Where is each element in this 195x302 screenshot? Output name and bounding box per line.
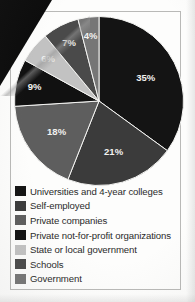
pie-slice-label: 4% [84, 30, 98, 41]
legend-color-swatch [15, 230, 26, 240]
legend-item-label: Private not-for-profit organizations [30, 230, 171, 241]
legend-item: Universities and 4-year colleges [15, 184, 181, 199]
legend-color-swatch [15, 274, 26, 284]
pie-chart: 35%21%18%9%6%7%4% [14, 16, 186, 186]
legend-color-swatch [15, 186, 26, 196]
chart-legend: Universities and 4-year collegesSelf-emp… [15, 184, 181, 286]
legend-item-label: Self-employed [30, 200, 90, 211]
pie-slice-group [15, 16, 184, 185]
pie-slice-label: 9% [28, 81, 42, 92]
legend-item-label: State or local government [30, 244, 137, 255]
page-edge-right-shadow [186, 0, 195, 302]
legend-item: Schools [15, 257, 181, 272]
legend-item: Private not-for-profit organizations [15, 228, 181, 243]
pie-slice-label: 35% [136, 72, 156, 83]
legend-item-label: Government [30, 273, 82, 284]
pie-slice-label: 18% [47, 126, 67, 137]
legend-item: Private companies [15, 213, 181, 228]
page-edge-bottom-shadow [0, 294, 195, 302]
legend-item: Self-employed [15, 199, 181, 214]
pie-slice-label: 7% [62, 37, 76, 48]
legend-item-label: Schools [30, 259, 63, 270]
legend-item-label: Universities and 4-year colleges [30, 186, 163, 197]
legend-color-swatch [15, 201, 26, 211]
legend-color-swatch [15, 245, 26, 255]
legend-item: Government [15, 272, 181, 287]
pie-slice-label: 6% [41, 53, 55, 64]
pie-slice-label: 21% [104, 146, 124, 157]
scanned-page: 35%21%18%9%6%7%4% Universities and 4-yea… [0, 0, 195, 302]
pie-chart-svg: 35%21%18%9%6%7%4% [14, 16, 186, 186]
legend-color-swatch [15, 215, 26, 225]
legend-item: State or local government [15, 242, 181, 257]
legend-item-label: Private companies [30, 215, 107, 226]
legend-color-swatch [15, 259, 26, 269]
